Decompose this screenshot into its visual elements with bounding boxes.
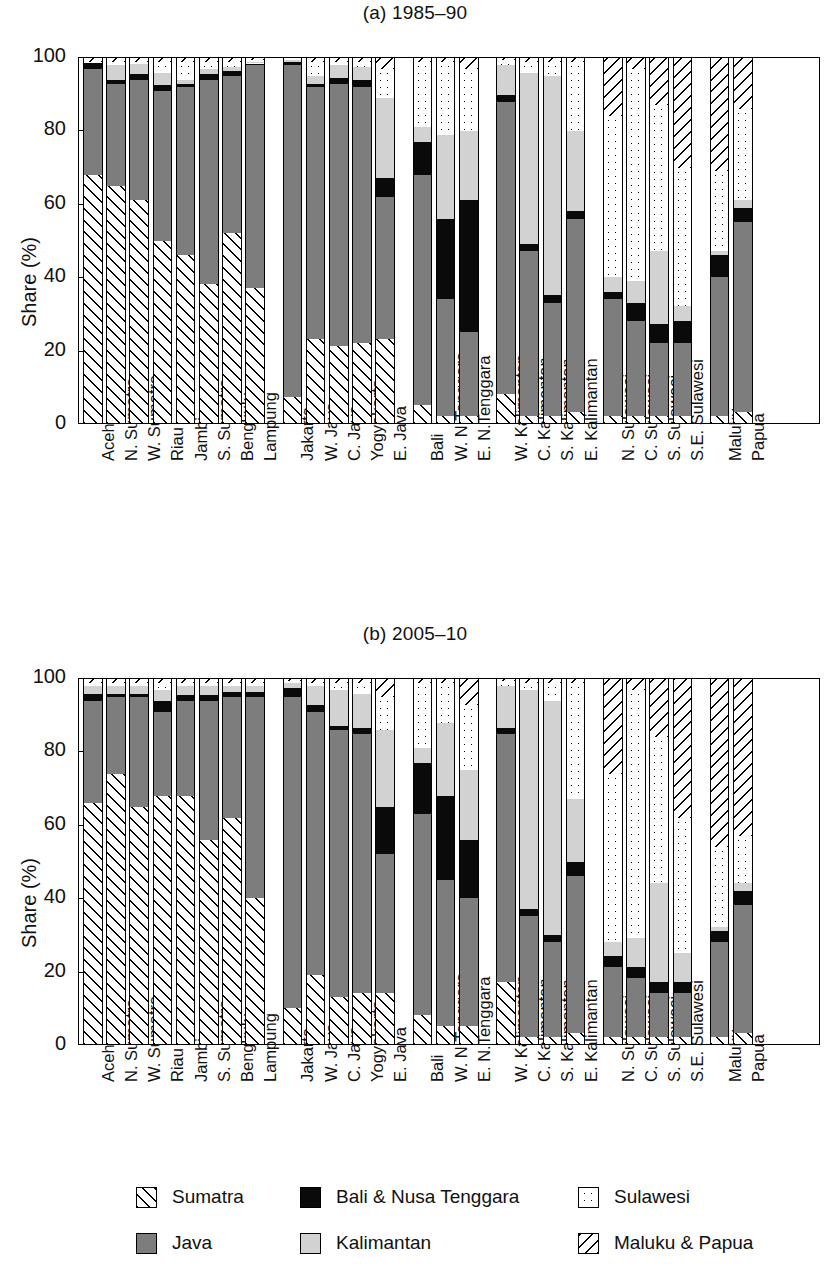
x-axis-tick-label: Lampung [261,392,280,461]
stacked-bar[interactable] [306,57,326,424]
bar-segment-sulawesi [627,690,645,938]
bar-segment-maluku [154,679,172,683]
stacked-bar[interactable] [106,678,126,1045]
bar-segment-bali [674,321,692,343]
stacked-bar[interactable] [283,57,303,424]
stacked-bar[interactable] [352,57,372,424]
stacked-bar[interactable] [603,678,623,1045]
stacked-bar[interactable] [329,678,349,1045]
stacked-bar[interactable] [153,57,173,424]
stacked-bar[interactable] [375,57,395,424]
bar-segment-bali [84,63,102,68]
bar-segment-sulawesi [437,62,455,135]
bar-segment-maluku [130,58,148,62]
bar-segment-java [154,91,172,241]
bar-segment-bali [330,78,348,83]
stacked-bar[interactable] [129,678,149,1045]
legend-item-bali[interactable]: Bali & Nusa Tenggara [300,1186,519,1208]
stacked-bar[interactable] [245,57,265,424]
bar-segment-java [177,701,195,796]
bar-segment-kalimantan [246,62,264,64]
stacked-bar[interactable] [733,57,753,424]
bar-segment-maluku [223,58,241,62]
y-axis-tick-label: 100 [20,44,66,67]
stacked-bar[interactable] [83,57,103,424]
y-axis-tick-label: 80 [20,738,66,761]
stacked-bar[interactable] [329,57,349,424]
stacked-bar[interactable] [129,57,149,424]
legend-item-sumatra[interactable]: Sumatra [136,1186,244,1208]
panel-b-plot: Share (%)020406080100AcehN. SumatraW. Su… [0,645,830,1242]
y-axis-tick-label: 100 [20,665,66,688]
stacked-bar[interactable] [626,57,646,424]
bar-segment-sulawesi [711,847,729,927]
stacked-bar[interactable] [222,678,242,1045]
bar-segment-kalimantan [223,67,241,71]
x-axis-tick-label: Bali [428,1054,447,1082]
stacked-bar[interactable] [626,678,646,1045]
stacked-bar[interactable] [176,57,196,424]
bar-segment-maluku [674,679,692,818]
stacked-bar[interactable] [199,57,219,424]
bar-segment-java [177,87,195,255]
x-axis-tick-label: S.E. Sulawesi [688,980,707,1082]
stacked-bar[interactable] [710,57,730,424]
stacked-bar[interactable] [283,678,303,1045]
stacked-bar[interactable] [733,678,753,1045]
stacked-bar[interactable] [649,57,669,424]
bar-segment-kalimantan [376,730,394,807]
bar-segment-sulawesi [497,681,515,686]
light-gray-swatch [300,1233,321,1254]
bar-segment-java [154,712,172,796]
stacked-bar[interactable] [413,678,433,1045]
stacked-bar[interactable] [306,678,326,1045]
stacked-bar[interactable] [222,57,242,424]
stacked-bar[interactable] [413,57,433,424]
x-axis-tick-label: S.E. Sulawesi [688,359,707,461]
panel-a-plot: Share (%)020406080100AcehN. SumatraW. Su… [0,24,830,621]
bar-segment-java [353,734,371,993]
bar-segment-sulawesi [460,69,478,131]
stacked-bar[interactable] [603,57,623,424]
stacked-bar[interactable] [375,678,395,1045]
bar-segment-sulawesi [376,69,394,98]
bar-segment-maluku [246,58,264,60]
bar-segment-sulawesi [200,62,218,69]
stacked-bar[interactable] [83,678,103,1045]
bar-segment-sulawesi [650,737,668,883]
bar-segment-java [130,697,148,807]
stacked-bar[interactable] [245,678,265,1045]
bar-segment-maluku [130,679,148,683]
bar-segment-sulawesi [520,683,538,690]
x-axis-tick-label: Riau [168,1048,187,1082]
y-axis-tick-label: 60 [20,812,66,835]
bar-segment-bali [567,862,585,877]
bar-segment-sulawesi [177,683,195,687]
stacked-bar[interactable] [153,678,173,1045]
bar-segment-bali [177,695,195,700]
bar-segment-java [284,697,302,1007]
legend-item-java[interactable]: Java [136,1232,212,1254]
stacked-bar[interactable] [710,678,730,1045]
bar-segment-sulawesi [627,69,645,281]
stacked-bar[interactable] [352,678,372,1045]
bar-segment-kalimantan [520,690,538,909]
bar-segment-sulawesi [734,836,752,883]
legend-item-kalimantan[interactable]: Kalimantan [300,1232,431,1254]
stacked-bar[interactable] [176,678,196,1045]
x-axis-tick-label: E. Kalimantan [582,979,601,1082]
bar-segment-sumatra [177,255,195,423]
bar-segment-maluku [223,679,241,683]
bar-segment-maluku [200,679,218,683]
bar-segment-maluku [650,679,668,737]
y-axis-tick-label: 40 [20,885,66,908]
stacked-bar[interactable] [199,678,219,1045]
stacked-bar[interactable] [106,57,126,424]
bar-segment-sulawesi [520,62,538,73]
legend-item-maluku[interactable]: Maluku & Papua [578,1232,753,1254]
stacked-bar[interactable] [649,678,669,1045]
bar-segment-java [330,84,348,347]
legend-label: Sulawesi [614,1186,690,1208]
bar-segment-bali [567,211,585,218]
legend-item-sulawesi[interactable]: Sulawesi [578,1186,690,1208]
